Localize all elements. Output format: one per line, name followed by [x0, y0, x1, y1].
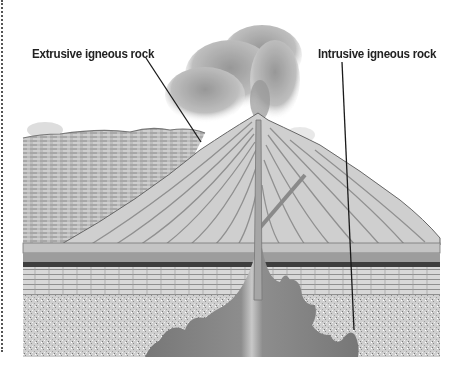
label-extrusive-igneous-rock: Extrusive igneous rock	[32, 46, 154, 61]
brick-layer	[23, 267, 440, 295]
dark-layer	[23, 262, 440, 267]
sedimentary-band-top	[23, 243, 440, 253]
sedimentary-band-mid	[23, 253, 440, 262]
label-intrusive-igneous-rock: Intrusive igneous rock	[318, 46, 436, 61]
